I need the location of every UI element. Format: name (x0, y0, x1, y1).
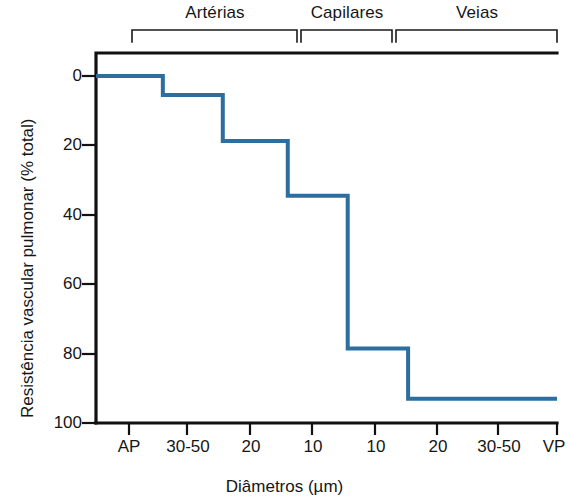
resistance-step-line (96, 76, 557, 399)
plot-canvas (0, 0, 569, 502)
plot-frame (96, 53, 557, 423)
bracket-arterias (132, 30, 297, 42)
bracket-veias (396, 30, 557, 42)
pulmonary-vascular-resistance-chart: Artérias Capilares Veias Resistência vas… (0, 0, 569, 502)
bracket-capilares (301, 30, 392, 42)
x-axis-ticks (129, 423, 557, 435)
y-axis-ticks (82, 76, 96, 423)
